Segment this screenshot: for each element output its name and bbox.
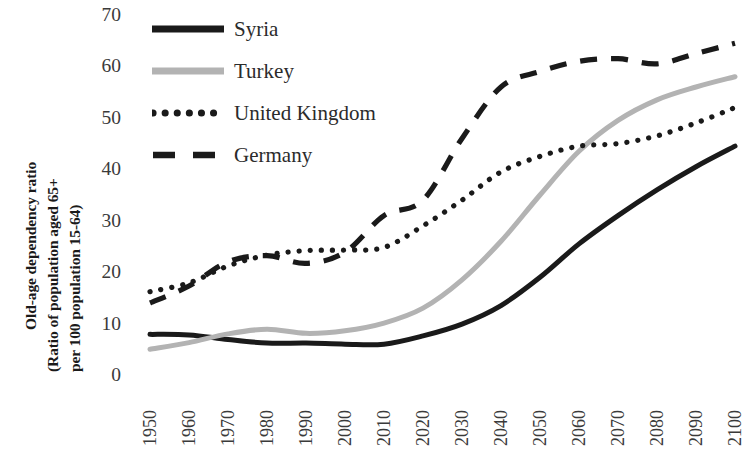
x-axis-tick-label: 1950 xyxy=(141,400,159,451)
legend-label: United Kingdom xyxy=(234,100,376,126)
legend-label: Germany xyxy=(234,142,312,168)
legend-item[interactable]: Turkey xyxy=(152,50,412,92)
x-axis-tick-label: 2060 xyxy=(570,400,588,451)
x-axis-tick-label: 2000 xyxy=(336,400,354,451)
x-axis-tick-label: 1970 xyxy=(219,400,237,451)
legend-label: Syria xyxy=(234,16,278,42)
x-axis-tick-label: 1980 xyxy=(258,400,276,451)
legend-swatch-germany xyxy=(152,147,224,163)
chart-legend: SyriaTurkeyUnited KingdomGermany xyxy=(152,8,412,176)
legend-label: Turkey xyxy=(234,58,294,84)
legend-item[interactable]: United Kingdom xyxy=(152,92,412,134)
x-axis-tick-labels: 1950196019701980199020002010202020302040… xyxy=(0,393,750,451)
x-axis-tick-label: 2090 xyxy=(687,400,705,451)
x-axis-tick-label: 2030 xyxy=(453,400,471,451)
x-axis-tick-label: 2010 xyxy=(375,400,393,451)
x-axis-tick-label: 2080 xyxy=(648,400,666,451)
legend-swatch-turkey xyxy=(152,63,224,79)
legend-item[interactable]: Germany xyxy=(152,134,412,176)
x-axis-tick-label: 1960 xyxy=(180,400,198,451)
x-axis-tick-label: 2020 xyxy=(414,400,432,451)
x-axis-tick-label: 2050 xyxy=(531,400,549,451)
legend-item[interactable]: Syria xyxy=(152,8,412,50)
legend-swatch-united-kingdom xyxy=(152,105,224,121)
x-axis-tick-label: 2100 xyxy=(726,400,744,451)
x-axis-tick-label: 1990 xyxy=(297,400,315,451)
x-axis-tick-label: 2040 xyxy=(492,400,510,451)
chart-root: Old-age dependency ratio (Ratio of popul… xyxy=(0,0,750,451)
legend-swatch-syria xyxy=(152,21,224,37)
x-axis-tick-label: 2070 xyxy=(609,400,627,451)
